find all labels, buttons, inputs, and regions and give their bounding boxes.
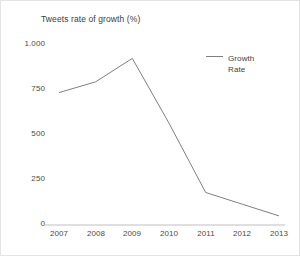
legend: Growth Rate <box>206 53 294 75</box>
plot-area <box>1 1 300 256</box>
legend-item-label-growth-rate: Growth Rate <box>228 53 262 75</box>
growth-rate-line <box>59 58 279 216</box>
line-swatch-icon <box>206 53 223 60</box>
chart-figure: Tweets rate of growth (%) 1.000 750 500 … <box>0 0 300 256</box>
